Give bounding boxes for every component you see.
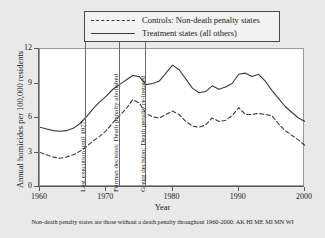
legend-item-controls: Controls: Non-death penalty states xyxy=(91,14,279,27)
x-tick-label: 1970 xyxy=(85,192,125,201)
dashed-line-key xyxy=(91,20,135,21)
x-tick-label: 1960 xyxy=(19,192,59,201)
legend-label-treatment: Treatment states (all others) xyxy=(142,29,237,38)
legend: Controls: Non-death penalty states Treat… xyxy=(84,11,280,42)
event-label-1976: Gregg decision: Death penalty re-instate… xyxy=(139,75,147,192)
y-tick-mark xyxy=(34,186,38,187)
y-tick-mark xyxy=(34,117,38,118)
y-tick-mark xyxy=(34,152,38,153)
legend-item-treatment: Treatment states (all others) xyxy=(91,27,279,40)
x-axis-label: Year xyxy=(0,203,325,212)
y-axis-line xyxy=(38,48,39,187)
x-tick-label: 1980 xyxy=(152,192,192,201)
x-tick-mark xyxy=(238,187,239,191)
figure-container: Controls: Non-death penalty states Treat… xyxy=(0,0,325,238)
x-tick-mark xyxy=(39,187,40,191)
y-tick-mark xyxy=(34,83,38,84)
y-axis-label-wrap: Annual homicides per 100,000 residents xyxy=(0,55,14,185)
footnote: Non-death penalty states are those witho… xyxy=(0,218,325,226)
x-tick-label: 1990 xyxy=(218,192,258,201)
x-tick-mark xyxy=(172,187,173,191)
event-label-1967: Last execution until 1977 xyxy=(79,121,87,192)
solid-line-key xyxy=(91,33,135,34)
x-tick-mark xyxy=(105,187,106,191)
x-tick-label: 2000 xyxy=(284,192,324,201)
event-label-1972: Furman decision: Death penalty abolished xyxy=(112,74,120,192)
y-axis-label: Annual homicides per 100,000 residents xyxy=(16,50,25,190)
x-tick-mark xyxy=(304,187,305,191)
y-tick-mark xyxy=(34,48,38,49)
legend-label-controls: Controls: Non-death penalty states xyxy=(142,16,260,25)
